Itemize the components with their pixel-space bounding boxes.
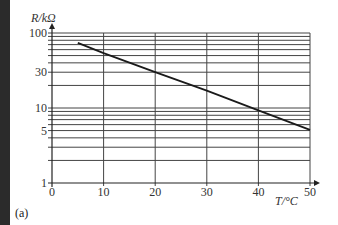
x-tick-label: 50	[304, 185, 316, 199]
x-tick-label: 10	[98, 185, 110, 199]
y-axis-label: R/kΩ	[30, 11, 56, 25]
chart: 10030105101020304050R/kΩT/°C	[0, 0, 338, 225]
x-tick-label: 0	[49, 185, 55, 199]
y-tick-label: 100	[29, 26, 47, 40]
x-tick-label: 40	[252, 185, 264, 199]
y-tick-label: 1	[41, 176, 47, 190]
x-tick-label: 20	[149, 185, 161, 199]
y-tick-label: 5	[41, 124, 47, 138]
x-axis-label: T/°C	[275, 194, 299, 208]
y-tick-label: 10	[35, 101, 47, 115]
y-tick-label: 30	[35, 65, 47, 79]
x-tick-label: 30	[201, 185, 213, 199]
panel-label: (a)	[15, 206, 28, 221]
